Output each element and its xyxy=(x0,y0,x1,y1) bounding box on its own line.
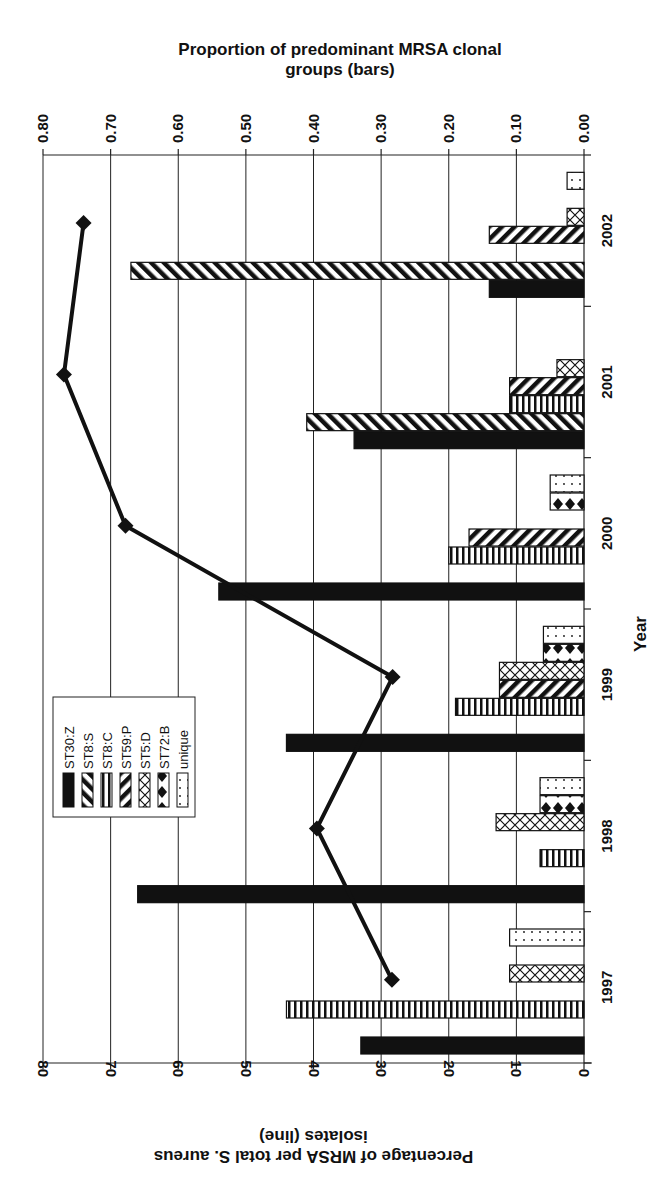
bar-axis-tick-label: 0.40 xyxy=(305,114,322,143)
bar-st30-z xyxy=(138,886,584,903)
bar-st8-c xyxy=(449,547,584,564)
line-axis-tick-label: 0 xyxy=(576,1069,593,1077)
bar-st30-z xyxy=(361,1037,584,1054)
diamond-marker xyxy=(384,972,400,988)
bar-axis-title-line1: Proportion of predominant MRSA clonal xyxy=(178,40,501,59)
bar-st8-s xyxy=(307,414,584,431)
chart: Proportion of predominant MRSA clonal gr… xyxy=(0,0,672,1203)
year-tick-label: 2001 xyxy=(598,365,615,398)
year-tick-label: 2002 xyxy=(598,214,615,247)
mrsa-percentage-line xyxy=(64,223,393,980)
bar-axis-tick-label: 0.10 xyxy=(507,114,524,143)
line-axis-title-line2: isolates (line) xyxy=(259,1127,368,1146)
bar-st30-z xyxy=(354,432,584,449)
bar-st5-d xyxy=(499,662,584,679)
legend-swatch xyxy=(82,773,93,807)
bar-st8-c xyxy=(510,396,584,413)
line-axis-tick-label: 70 xyxy=(103,1060,120,1077)
year-tick-label: 1999 xyxy=(598,668,615,701)
bar-st5-d xyxy=(557,360,584,377)
bar-st59-p xyxy=(489,226,584,243)
bar-st5-d xyxy=(496,814,584,831)
bar-st8-c xyxy=(456,698,584,715)
bar-st8-c xyxy=(540,850,584,867)
gridlines xyxy=(43,155,516,1063)
diamond-marker xyxy=(118,518,134,534)
legend-swatch xyxy=(63,773,74,807)
line-axis-tick-label: 50 xyxy=(238,1060,255,1077)
year-axis-title: Year xyxy=(631,616,650,652)
diamond-marker xyxy=(76,215,92,231)
line-axis-tick-label: 80 xyxy=(35,1060,52,1077)
diamond-marker xyxy=(385,669,401,685)
diamond-marker xyxy=(309,820,325,836)
bar-axis-tick-label: 0.80 xyxy=(34,114,51,143)
bar-unique xyxy=(510,929,584,946)
legend-swatch xyxy=(139,773,150,807)
line-axis-tick-label: 30 xyxy=(373,1060,390,1077)
legend-swatch xyxy=(158,773,169,807)
bar-st30-z xyxy=(489,280,584,297)
bar-st5-d xyxy=(510,965,584,982)
legend: ST30:ZST8:SST8:CST59:PST5:DST72:Bunique xyxy=(53,697,195,817)
legend-swatch xyxy=(120,773,131,807)
bar-axis-tick-label: 0.30 xyxy=(372,114,389,143)
legend-label: ST5:D xyxy=(138,732,153,769)
line-axis-tick-label: 60 xyxy=(170,1060,187,1077)
bar-st30-z xyxy=(286,734,584,751)
legend-swatch xyxy=(177,773,188,807)
bar-unique xyxy=(567,172,584,189)
legend-label: ST30:Z xyxy=(62,726,77,769)
line-series xyxy=(56,215,401,988)
line-axis-title-line1: Percentage of MRSA per total S. aureus xyxy=(154,1147,474,1166)
bar-axis-tick-label: 0.70 xyxy=(102,114,119,143)
diamond-marker xyxy=(56,366,72,382)
bar-st8-s xyxy=(131,262,584,279)
bar-axis-tick-label: 0.60 xyxy=(169,114,186,143)
bar-st59-p xyxy=(499,680,584,697)
bar-st59-p xyxy=(469,529,584,546)
bar-axis-tick-label: 0.00 xyxy=(575,114,592,143)
legend-label: unique xyxy=(176,730,191,769)
bar-st72-b xyxy=(543,644,584,661)
line-axis-tick-label: 20 xyxy=(441,1060,458,1077)
year-tick-label: 2000 xyxy=(598,517,615,550)
bar-st72-b xyxy=(550,493,584,510)
bar-axis-title-line2: groups (bars) xyxy=(285,60,395,79)
legend-label: ST59:P xyxy=(119,726,134,769)
year-tick-label: 1998 xyxy=(598,819,615,852)
bar-axis-tick-label: 0.20 xyxy=(440,114,457,143)
line-axis-tick-label: 40 xyxy=(306,1060,323,1077)
bar-st8-c xyxy=(286,1001,584,1018)
bar-axis-tick-label: 0.50 xyxy=(237,114,254,143)
year-tick-label: 1997 xyxy=(598,971,615,1004)
legend-label: ST72:B xyxy=(157,726,172,769)
bar-st5-d xyxy=(567,208,584,225)
line-axis-tick-label: 10 xyxy=(508,1060,525,1077)
bar-unique xyxy=(540,778,584,795)
bar-st59-p xyxy=(510,378,584,395)
legend-swatch xyxy=(101,773,112,807)
bar-st30-z xyxy=(219,583,584,600)
legend-label: ST8:S xyxy=(81,733,96,769)
bar-st72-b xyxy=(540,796,584,813)
bar-unique xyxy=(543,626,584,643)
bar-unique xyxy=(550,475,584,492)
legend-label: ST8:C xyxy=(100,732,115,769)
